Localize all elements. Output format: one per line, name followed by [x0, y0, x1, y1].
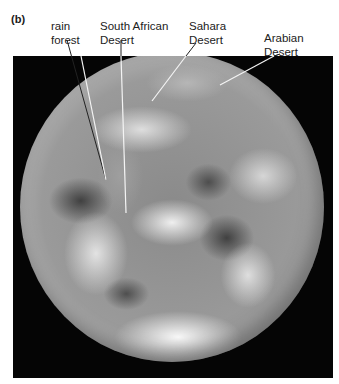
earth-photo-frame	[13, 56, 333, 378]
panel-label: (b)	[11, 13, 25, 25]
earth-globe-image	[20, 56, 324, 362]
callout-south-african-desert: South African Desert	[100, 19, 168, 47]
callout-arabian-desert: Arabian Desert	[264, 31, 304, 59]
callout-sahara-desert: Sahara Desert	[189, 19, 226, 47]
callout-rain-forest: rain forest	[51, 19, 80, 47]
